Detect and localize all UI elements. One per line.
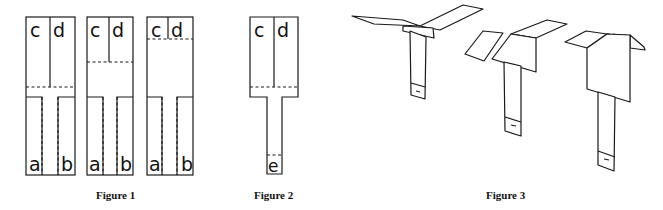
label-d: d: [53, 19, 65, 41]
label-b: b: [181, 153, 193, 175]
caption-figure-1: Figure 1: [96, 189, 135, 201]
caption-figure-3: Figure 3: [486, 189, 525, 201]
label-c: c: [254, 19, 264, 41]
label-d: d: [112, 19, 124, 41]
label-c: c: [151, 19, 161, 41]
figure-3-helicopter-3: [565, 31, 645, 171]
figure-2-template: c d e: [250, 17, 298, 176]
label-d: d: [171, 19, 183, 41]
label-a: a: [149, 153, 161, 175]
figure-1-panel-3: c d a b: [147, 17, 193, 175]
figure-3-helicopter-1: [352, 5, 483, 99]
label-a: a: [29, 153, 41, 175]
label-e: e: [268, 156, 278, 176]
label-b: b: [120, 153, 132, 175]
figure-1-panel-1: c d a b: [26, 17, 75, 175]
label-c: c: [90, 19, 100, 41]
label-c: c: [30, 19, 40, 41]
label-a: a: [89, 153, 101, 175]
label-d: d: [277, 19, 289, 41]
figure-3-helicopter-2: [465, 20, 567, 136]
diagram-canvas: c d a b c d a b c d a b c d: [0, 0, 663, 210]
caption-figure-2: Figure 2: [254, 189, 293, 201]
figure-1-panel-2: c d a b: [87, 17, 133, 175]
label-b: b: [61, 153, 73, 175]
